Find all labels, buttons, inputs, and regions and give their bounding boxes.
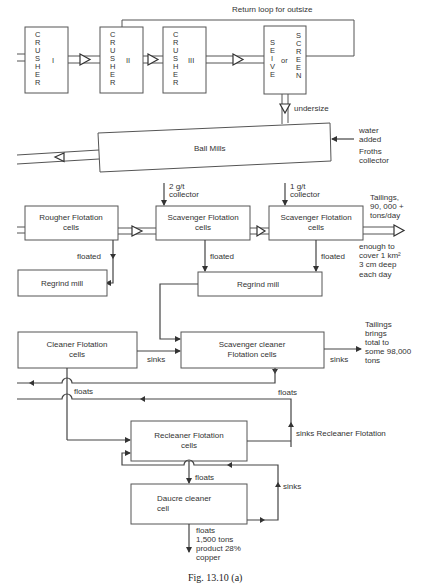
svg-text:Ball Mills: Ball Mills bbox=[194, 144, 226, 153]
svg-text:water: water bbox=[358, 126, 379, 135]
flow-scavenger2-regrind2: floated bbox=[316, 240, 345, 271]
svg-text:R: R bbox=[173, 78, 179, 87]
scavenger-flotation-cells-2: Scavenger Flotation cells bbox=[269, 206, 363, 240]
flowchart-diagram: Return loop for outsize C R U S H E R I … bbox=[0, 0, 428, 587]
svg-text:tons: tons bbox=[365, 356, 380, 365]
svg-text:cells: cells bbox=[181, 441, 197, 450]
svg-text:Regrind mill: Regrind mill bbox=[41, 279, 83, 288]
svg-text:Scavenger Flotation: Scavenger Flotation bbox=[280, 213, 351, 222]
flow-cleaner-scavenger-cleaner: sinks bbox=[137, 351, 180, 364]
svg-text:sinks: sinks bbox=[330, 355, 348, 364]
svg-text:Tailings: Tailings bbox=[365, 320, 392, 329]
svg-text:collector: collector bbox=[359, 156, 389, 165]
svg-text:floats: floats bbox=[278, 388, 297, 397]
svg-text:Scavenger Flotation: Scavenger Flotation bbox=[167, 213, 238, 222]
sieve-screen: S E I V E or S C R E E N bbox=[264, 26, 306, 94]
svg-text:cells: cells bbox=[69, 350, 85, 359]
svg-text:Tailings,: Tailings, bbox=[370, 193, 399, 202]
svg-text:collector: collector bbox=[290, 190, 320, 199]
scavenger-flotation-cells-1: Scavenger Flotation cells bbox=[156, 206, 250, 240]
regrind-mill-1: Regrind mill bbox=[18, 270, 107, 296]
svg-text:3 cm deep: 3 cm deep bbox=[359, 260, 397, 269]
recleaner-flotation-cells: Recleaner Flotation cells bbox=[131, 421, 291, 461]
svg-text:1,500 tons: 1,500 tons bbox=[196, 535, 233, 544]
pipe-crusher1-2 bbox=[68, 54, 100, 65]
svg-text:cells: cells bbox=[308, 223, 324, 232]
tailings-output-2: sinks Tailings brings total to some 98,0… bbox=[324, 320, 412, 365]
svg-text:Rougher Flotation: Rougher Flotation bbox=[39, 213, 103, 222]
svg-text:each day: each day bbox=[359, 270, 391, 279]
svg-text:floated: floated bbox=[321, 252, 345, 261]
svg-text:cell: cell bbox=[157, 504, 169, 513]
svg-text:floated: floated bbox=[210, 252, 234, 261]
collector-1gt: 1 g/t collector bbox=[285, 182, 320, 205]
svg-text:collector: collector bbox=[169, 190, 199, 199]
rougher-flotation-cells: Rougher Flotation cells bbox=[17, 206, 118, 240]
svg-text:R: R bbox=[110, 78, 116, 87]
flow-cleaner-down bbox=[67, 368, 130, 440]
svg-text:brings: brings bbox=[365, 329, 387, 338]
svg-text:Scavenger cleaner: Scavenger cleaner bbox=[219, 340, 286, 349]
pipe-crusher3-sieve bbox=[206, 54, 264, 65]
svg-text:enough to: enough to bbox=[359, 242, 395, 251]
svg-text:added: added bbox=[359, 135, 381, 144]
flow-recleaner-daucre: floats bbox=[189, 461, 214, 483]
svg-text:product 28%: product 28% bbox=[196, 544, 241, 553]
cleaner-flotation-cells: Cleaner Flotation cells bbox=[18, 332, 137, 368]
crusher-2-numeral: II bbox=[126, 56, 130, 65]
svg-text:cells: cells bbox=[195, 223, 211, 232]
svg-text:90, 000 +: 90, 000 + bbox=[370, 202, 404, 211]
svg-text:floats: floats bbox=[74, 387, 93, 396]
crusher-1: C R U S H E R I bbox=[17, 27, 68, 93]
svg-text:some 98,000: some 98,000 bbox=[365, 347, 412, 356]
figure-caption: Fig. 13.10 (a) bbox=[188, 572, 242, 584]
regrind-mill-2: Regrind mill bbox=[198, 272, 322, 296]
return-loop-label: Return loop for outsize bbox=[232, 5, 313, 14]
svg-text:tons/day: tons/day bbox=[370, 211, 400, 220]
flow-regrind2-scavenger-cleaner bbox=[160, 284, 198, 339]
undersize-label: undersize bbox=[294, 104, 329, 113]
collector-2gt: 2 g/t collector bbox=[164, 182, 199, 205]
svg-text:total to: total to bbox=[365, 338, 390, 347]
svg-text:floats: floats bbox=[195, 473, 214, 482]
svg-text:sinks: sinks bbox=[283, 482, 301, 491]
svg-text:E: E bbox=[270, 70, 275, 79]
svg-text:R: R bbox=[35, 78, 41, 87]
product-output: floats 1,500 tons product 28% copper bbox=[189, 524, 241, 562]
svg-text:sinks: sinks bbox=[147, 355, 165, 364]
svg-text:or: or bbox=[281, 56, 288, 65]
flow-scavenger1-regrind2: floated bbox=[205, 240, 234, 271]
svg-text:Cleaner Flotation: Cleaner Flotation bbox=[47, 340, 108, 349]
svg-text:floats: floats bbox=[196, 526, 215, 535]
svg-text:Flotation cells: Flotation cells bbox=[228, 350, 277, 359]
ball-mills: Ball Mills water added Froths collector bbox=[17, 123, 389, 172]
svg-text:cover 1 km²: cover 1 km² bbox=[359, 251, 401, 260]
return-loop: Return loop for outsize bbox=[122, 5, 354, 56]
daucre-cleaner-cell: Daucre cleaner cell bbox=[131, 484, 247, 524]
flow-scavenger-cleaner-return bbox=[17, 368, 278, 386]
pipe-crusher2-3 bbox=[143, 54, 163, 65]
svg-text:cells: cells bbox=[63, 223, 79, 232]
svg-text:Regrind mill: Regrind mill bbox=[237, 280, 279, 289]
crusher-3-numeral: III bbox=[188, 56, 194, 65]
pipe-scavenger1-2 bbox=[250, 226, 269, 236]
crusher-3: C R U S H E R III bbox=[163, 27, 206, 93]
pipe-undersize: undersize bbox=[280, 94, 329, 124]
svg-text:Recleaner Flotation: Recleaner Flotation bbox=[154, 431, 223, 440]
svg-text:copper: copper bbox=[196, 553, 221, 562]
crusher-1-numeral: I bbox=[52, 56, 54, 65]
scavenger-cleaner-flotation-cells: Scavenger cleaner Flotation cells bbox=[181, 332, 324, 368]
crusher-2: C R U S H E R II bbox=[100, 27, 143, 93]
svg-text:Daucre cleaner: Daucre cleaner bbox=[157, 494, 212, 503]
tailings-output-1: Tailings, 90, 000 + tons/day enough to c… bbox=[359, 193, 404, 279]
svg-text:N: N bbox=[296, 71, 301, 80]
pipe-rougher-scavenger bbox=[118, 226, 156, 236]
svg-text:sinks Recleaner Flotation: sinks Recleaner Flotation bbox=[296, 429, 386, 438]
svg-text:Froths: Froths bbox=[359, 147, 382, 156]
svg-text:floated: floated bbox=[77, 252, 101, 261]
